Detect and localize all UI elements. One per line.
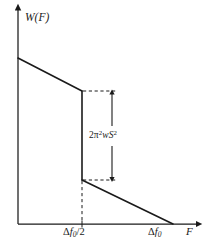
x-tick-label-half-delta-f0: Δf0/2: [63, 227, 85, 239]
step-height-label: 2π2wS2: [89, 130, 117, 140]
delta-glyph: Δ: [63, 226, 70, 237]
delta-glyph: Δ: [148, 226, 155, 237]
x-axis-label: F: [186, 226, 193, 237]
s-exponent: 2: [114, 129, 118, 136]
curve-lower-segment: [82, 180, 173, 224]
half-divisor: /2: [76, 226, 84, 237]
x-tick-label-delta-f0: Δf0: [148, 227, 161, 239]
plot-canvas: [0, 0, 203, 250]
figure-panel: W(F) F Δf0/2 Δf0 2π2wS2: [0, 0, 203, 250]
y-axis-label: W(F): [25, 12, 49, 24]
curve-upper-segment: [18, 58, 82, 91]
subscript-zero: 0: [158, 230, 162, 239]
